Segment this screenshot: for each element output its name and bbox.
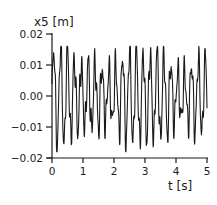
x-axis-label: t [s] <box>168 179 192 193</box>
y-axis-label: x5 [m] <box>34 15 74 29</box>
y-tick-label: −0.02 <box>11 152 43 164</box>
x-tick-label: 4 <box>173 165 180 177</box>
x-axis-ticks: 012345 <box>49 158 211 177</box>
x-tick-label: 1 <box>80 165 87 177</box>
y-tick-label: 0.02 <box>20 28 43 40</box>
y-tick-label: 0.01 <box>20 59 43 71</box>
y-tick-label: 0.00 <box>20 90 43 102</box>
x-tick-label: 3 <box>142 165 149 177</box>
x-tick-label: 2 <box>111 165 118 177</box>
x-tick-label: 0 <box>49 165 56 177</box>
line-chart: x5 [m] t [s] 0.020.010.00−0.01−0.02 0123… <box>0 0 217 205</box>
y-tick-label: −0.01 <box>11 121 43 133</box>
x-tick-label: 5 <box>204 165 211 177</box>
signal-line <box>52 46 207 151</box>
y-axis-ticks: 0.020.010.00−0.01−0.02 <box>11 28 52 164</box>
